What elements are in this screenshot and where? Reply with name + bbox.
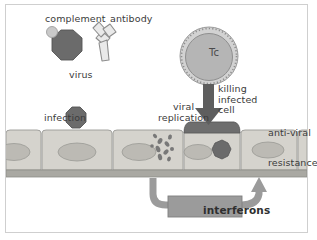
nucleus-cell-2 <box>58 143 96 161</box>
virus-complement-antibody-group <box>47 22 117 61</box>
epithelium-layer <box>0 122 307 177</box>
label-viral-replication: viral replication <box>158 101 209 123</box>
basement-membrane <box>6 170 307 177</box>
infected-cell-apical-cap <box>184 122 240 133</box>
antibody-y-shape <box>93 22 116 61</box>
intracellular-virus-cell-4 <box>212 140 231 159</box>
label-infection: infection <box>44 112 86 123</box>
nucleus-cell-5 <box>252 142 284 158</box>
label-complement: complement <box>45 13 106 24</box>
interferon-arrowhead <box>251 177 267 192</box>
complement-protein-dot <box>47 27 58 38</box>
label-killing-infected-cell: killing infected cell <box>218 84 257 116</box>
label-killing-line1: killing <box>218 84 257 95</box>
label-interferons: interferons <box>203 205 270 216</box>
label-killing-line3: cell <box>218 105 257 116</box>
label-viral-replication-line1: viral <box>173 101 194 112</box>
figure-root: complement antibody virus infection vira… <box>0 0 317 240</box>
label-antibody: antibody <box>110 13 153 24</box>
nucleus-cell-1 <box>0 144 30 161</box>
label-virus: virus <box>69 69 93 80</box>
nucleus-cell-4 <box>184 145 212 160</box>
label-viral-replication-line2: replication <box>158 112 209 123</box>
label-tc-cell: Tc <box>209 47 219 58</box>
label-resistance: resistance <box>268 157 317 168</box>
label-anti-viral: anti-viral <box>268 127 311 138</box>
